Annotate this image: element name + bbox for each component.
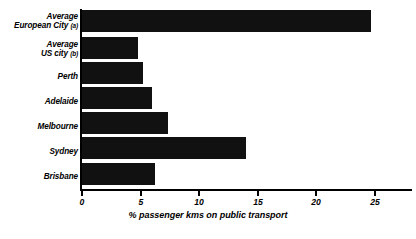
category-label-line1: Average (46, 12, 78, 21)
bar-melbourne (82, 112, 168, 134)
category-label-average-european-city: Average European City (a) (4, 12, 82, 31)
bar-row (82, 37, 412, 59)
plot-area (82, 10, 412, 190)
bar-average-us-city (82, 37, 138, 59)
x-tick-0 (81, 191, 83, 196)
category-label-line2: Perth (58, 72, 78, 81)
bar-row (82, 163, 412, 185)
category-label-brisbane: Brisbane (4, 172, 82, 181)
category-label-average-us-city: Average US city (b) (4, 40, 82, 59)
category-label-line2: Sydney (49, 147, 78, 156)
category-axis-labels: Average European City (a) Average US cit… (0, 10, 82, 190)
x-tick-label-15: 15 (253, 197, 263, 207)
category-label-sydney: Sydney (4, 147, 82, 156)
x-axis-line (80, 189, 412, 191)
bar-row (82, 10, 412, 32)
bar-row (82, 112, 412, 134)
bar-perth (82, 62, 143, 84)
x-tick-label-20: 20 (311, 197, 321, 207)
x-tick-25 (374, 191, 376, 196)
x-tick-10 (198, 191, 200, 196)
bar-adelaide (82, 87, 152, 109)
footnote-marker-b: (b) (70, 50, 78, 57)
category-label-melbourne: Melbourne (4, 122, 82, 131)
bar-row (82, 87, 412, 109)
category-label-line1: Average (46, 40, 78, 49)
category-label-perth: Perth (4, 72, 82, 81)
bar-chart: Average European City (a) Average US cit… (0, 0, 416, 239)
x-tick-15 (257, 191, 259, 196)
category-label-line2: Adelaide (45, 97, 78, 106)
category-label-adelaide: Adelaide (4, 97, 82, 106)
footnote-marker-a: (a) (70, 22, 78, 29)
x-tick-label-5: 5 (139, 197, 144, 207)
x-tick-label-25: 25 (370, 197, 380, 207)
x-tick-label-10: 10 (194, 197, 204, 207)
category-label-line2: Melbourne (38, 122, 79, 131)
x-tick-20 (315, 191, 317, 196)
category-label-line2: European City (14, 21, 68, 30)
category-label-line2: US city (41, 49, 68, 58)
x-tick-label-0: 0 (80, 197, 85, 207)
x-tick-5 (140, 191, 142, 196)
bar-row (82, 62, 412, 84)
bar-row (82, 137, 412, 159)
bar-sydney (82, 137, 246, 159)
category-label-line2: Brisbane (44, 172, 78, 181)
y-axis-line (80, 9, 82, 190)
x-axis-title: % passenger kms on public transport (0, 210, 416, 220)
bar-average-european-city (82, 10, 371, 32)
bar-brisbane (82, 163, 155, 185)
